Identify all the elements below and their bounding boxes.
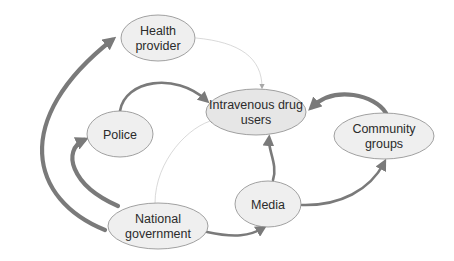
node-label: Media xyxy=(251,198,285,212)
node-police: Police xyxy=(87,111,153,157)
edge-community-to-idu xyxy=(312,94,386,113)
node-label: Police xyxy=(103,128,137,142)
node-shape xyxy=(206,89,306,135)
edge-media-to-community xyxy=(302,163,384,205)
node-label: government xyxy=(125,227,192,241)
edge-government-to-idu xyxy=(155,120,214,203)
node-shape xyxy=(121,15,195,61)
edge-police-to-idu xyxy=(120,83,206,111)
node-label: National xyxy=(135,212,181,226)
node-shape xyxy=(334,113,434,159)
node-idu: Intravenous drugusers xyxy=(206,89,306,135)
node-shape xyxy=(108,203,208,249)
network-diagram: HealthproviderIntravenous drugusersPolic… xyxy=(0,0,454,261)
node-label: Health xyxy=(140,24,176,38)
node-label: provider xyxy=(135,39,180,53)
node-community: Communitygroups xyxy=(334,113,434,159)
node-media: Media xyxy=(235,181,301,227)
node-label: Community xyxy=(352,122,416,136)
edge-government-to-media xyxy=(207,228,263,235)
node-health: Healthprovider xyxy=(121,15,195,61)
nodes-layer: HealthproviderIntravenous drugusersPolic… xyxy=(87,15,434,249)
edge-media-to-idu xyxy=(269,139,274,180)
node-label: Intravenous drug xyxy=(209,98,303,112)
node-label: groups xyxy=(365,137,403,151)
node-government: Nationalgovernment xyxy=(108,203,208,249)
edge-health-to-idu xyxy=(196,38,262,87)
node-label: users xyxy=(241,113,272,127)
